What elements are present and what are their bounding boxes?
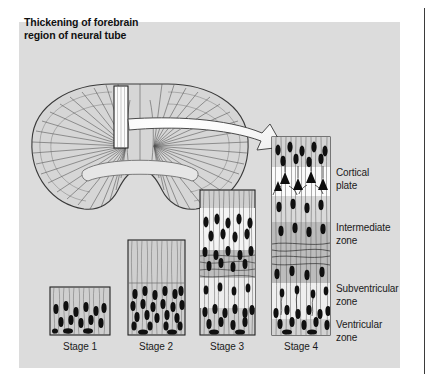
stage-2-column: [128, 240, 185, 335]
zone-label-cortical-plate-line-1: Cortical: [336, 167, 369, 180]
zone-label-ventricular-zone-line-2: zone: [336, 332, 382, 345]
zone-label-intermediate-zone: Intermediate zone: [336, 222, 390, 247]
zone-label-subventricular-zone-line-1: Subventricular: [336, 283, 399, 296]
stage-label-1: Stage 1: [45, 341, 115, 352]
zone-label-intermediate-zone-line-2: zone: [336, 235, 390, 248]
stage-1-column: [50, 287, 110, 335]
zone-label-ventricular-zone-line-1: Ventricular: [336, 319, 382, 332]
stage-4-column: [272, 137, 331, 335]
zone-label-subventricular-zone-line-2: zone: [336, 296, 399, 309]
zone-label-subventricular-zone: Subventricular zone: [336, 283, 399, 308]
zone-label-cortical-plate-line-2: plate: [336, 180, 369, 193]
stage-label-2: Stage 2: [121, 341, 191, 352]
stage-3-column: [200, 190, 255, 335]
wall-segment-callout: [114, 86, 128, 148]
zone-label-intermediate-zone-line-1: Intermediate: [336, 222, 390, 235]
figure-root: Thickening of forebrain region of neural…: [0, 0, 433, 381]
page-column-rule: [424, 8, 425, 374]
zone-label-ventricular-zone: Ventricular zone: [336, 319, 382, 344]
stage-label-3: Stage 3: [192, 341, 262, 352]
stage-label-4: Stage 4: [266, 341, 336, 352]
zone-label-cortical-plate: Cortical plate: [336, 167, 369, 192]
